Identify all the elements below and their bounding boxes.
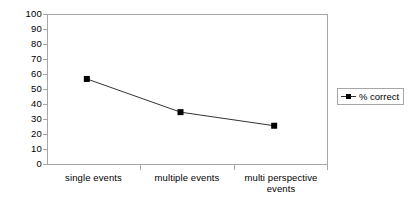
plot-area (47, 14, 328, 165)
y-tick-label: 100 (0, 9, 42, 19)
y-tick-label: 40 (0, 99, 42, 109)
y-tick-mark (43, 89, 47, 90)
y-tick-mark (43, 14, 47, 15)
y-tick-mark (43, 149, 47, 150)
y-tick-label: 60 (0, 69, 42, 79)
y-tick-label: 70 (0, 54, 42, 64)
x-tick-label-single-events: single events (47, 172, 140, 183)
legend-marker (346, 94, 351, 99)
line-chart: 100 90 80 70 60 50 40 30 20 10 0 single … (0, 0, 415, 211)
x-tick-label-line1: multi perspective (234, 172, 328, 183)
y-tick-label: 20 (0, 129, 42, 139)
y-tick-mark (43, 29, 47, 30)
y-tick-mark (43, 119, 47, 120)
y-tick-mark (43, 104, 47, 105)
x-tick-mark (140, 165, 141, 170)
y-tick-mark (43, 59, 47, 60)
y-axis: 100 90 80 70 60 50 40 30 20 10 0 (0, 0, 42, 211)
legend: % correct (337, 88, 404, 105)
x-tick-label-multiple-events: multiple events (140, 172, 234, 183)
y-tick-label: 30 (0, 114, 42, 124)
x-tick-label-line1: single events (47, 172, 140, 183)
y-tick-label: 80 (0, 39, 42, 49)
x-tick-mark (234, 165, 235, 170)
y-tick-mark (43, 134, 47, 135)
x-tick-label-line1: multiple events (140, 172, 234, 183)
legend-label: % correct (359, 92, 399, 102)
y-tick-label: 50 (0, 84, 42, 94)
y-tick-mark (43, 44, 47, 45)
y-tick-mark (43, 164, 47, 165)
square-marker-icon (341, 92, 356, 101)
x-tick-label-multi-perspective-events: multi perspective events (234, 172, 328, 194)
y-tick-mark (43, 74, 47, 75)
y-tick-label: 90 (0, 24, 42, 34)
y-tick-label: 10 (0, 144, 42, 154)
x-tick-label-line2: events (234, 183, 328, 194)
x-tick-mark (327, 165, 328, 170)
y-tick-label: 0 (0, 159, 42, 169)
